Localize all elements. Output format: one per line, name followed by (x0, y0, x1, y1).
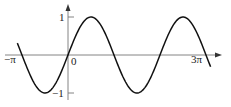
x-axis-arrow-icon (215, 53, 222, 58)
x-label-three-pi: 3π (191, 53, 203, 65)
x-label-zero: 0 (71, 55, 77, 67)
x-label-neg-pi: −π (4, 53, 16, 65)
sine-chart: −π 0 3π 1 −1 (0, 0, 231, 107)
y-label-neg-one: −1 (52, 87, 64, 99)
y-label-one: 1 (59, 11, 65, 23)
y-axis-arrow-icon (66, 4, 71, 11)
